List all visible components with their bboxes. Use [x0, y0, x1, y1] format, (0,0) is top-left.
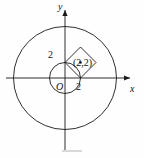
point-coordinate-label: (2,2) [73, 58, 92, 68]
x-axis-tick-label: 2 [76, 82, 81, 92]
origin-label: O [56, 82, 63, 92]
geometry-figure: y x O 2 2 (2,2) [0, 0, 144, 158]
y-axis-label: y [58, 2, 62, 12]
y-axis-arrow-icon [62, 10, 67, 16]
x-axis-arrow-icon [124, 75, 130, 80]
x-axis-label: x [130, 84, 134, 94]
geometry-canvas [0, 0, 144, 158]
page-artifact-mark [62, 150, 82, 152]
y-axis-tick-label: 2 [48, 50, 53, 60]
